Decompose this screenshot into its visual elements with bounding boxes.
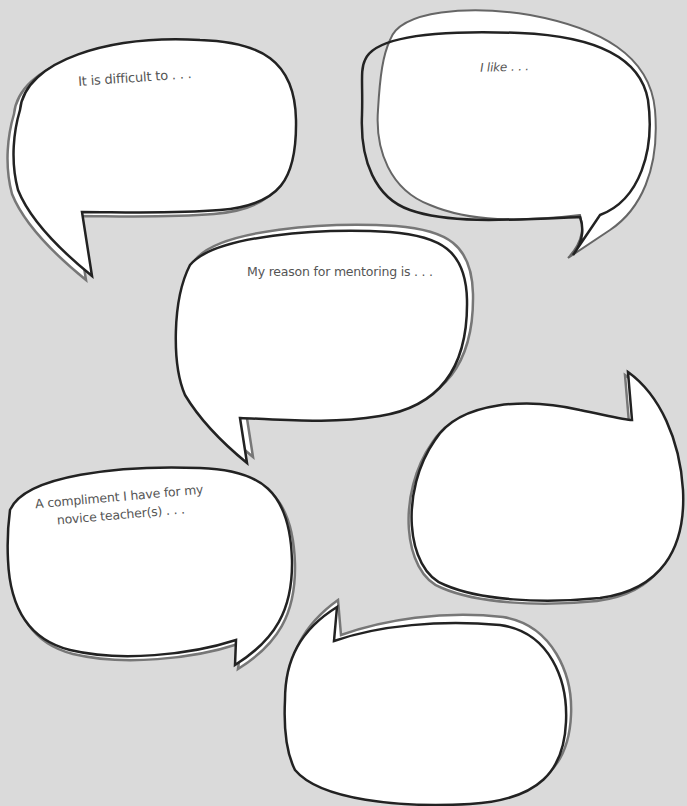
- speech-bubbles-artwork: [0, 0, 687, 806]
- worksheet-page: It is difficult to . . . I like . . . My…: [0, 0, 687, 806]
- bubble-4[interactable]: [409, 372, 684, 604]
- bubble-2[interactable]: [362, 10, 656, 258]
- bubble-3[interactable]: [176, 225, 473, 463]
- bubble-6[interactable]: [285, 600, 571, 805]
- bubble-2-prompt: I like . . .: [480, 59, 529, 75]
- bubble-3-prompt: My reason for mentoring is . . .: [230, 264, 450, 279]
